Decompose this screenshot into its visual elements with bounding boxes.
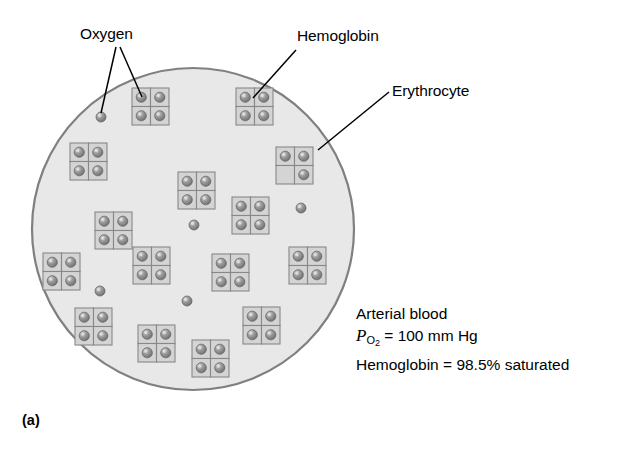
hemoglobin-molecule	[133, 247, 170, 284]
oxygen-highlight	[198, 346, 201, 349]
bound-oxygen	[99, 235, 109, 245]
bound-oxygen	[236, 220, 246, 230]
oxygen-highlight	[49, 259, 52, 262]
bound-oxygen	[98, 312, 108, 322]
po2-symbol: PO2	[356, 326, 380, 345]
oxygen-highlight	[97, 288, 100, 291]
hemoglobin-molecule	[75, 308, 112, 345]
oxygen-highlight	[261, 113, 264, 116]
oxygen-highlight	[184, 298, 187, 301]
hemoglobin-molecule	[138, 325, 175, 362]
oxygen-highlight	[158, 272, 161, 275]
oxygen-highlight	[218, 279, 221, 282]
bound-oxygen	[280, 151, 290, 161]
hemoglobin-molecule	[95, 212, 132, 249]
bound-oxygen	[201, 195, 211, 205]
free-oxygen-molecule	[95, 286, 105, 296]
oxygen-highlight	[237, 279, 240, 282]
oxygen-highlight	[100, 314, 103, 317]
oxygen-highlight	[261, 94, 264, 97]
hemoglobin-molecule	[178, 172, 215, 209]
bound-oxygen	[47, 276, 57, 286]
bound-oxygen	[255, 201, 265, 211]
bound-oxygen	[240, 92, 250, 102]
oxygen-highlight	[314, 272, 317, 275]
oxygen-highlight	[242, 94, 245, 97]
bound-oxygen	[142, 348, 152, 358]
bound-oxygen	[47, 257, 57, 267]
bound-oxygen	[137, 270, 147, 280]
bound-oxygen	[247, 311, 257, 321]
bound-oxygen	[79, 312, 89, 322]
oxygen-highlight	[81, 333, 84, 336]
oxygen-highlight	[301, 153, 304, 156]
oxygen-highlight	[101, 218, 104, 221]
stat-arterial-blood: Arterial blood	[356, 303, 569, 325]
oxygen-highlight	[298, 205, 301, 208]
hemoglobin-molecule	[236, 88, 273, 125]
bound-oxygen	[161, 348, 171, 358]
oxygen-highlight	[268, 313, 271, 316]
bound-oxygen	[66, 276, 76, 286]
oxygen-highlight	[257, 222, 260, 225]
blood-stats-block: Arterial blood PO2 = 100 mm Hg Hemoglobi…	[356, 303, 569, 376]
oxygen-highlight	[203, 197, 206, 200]
bound-oxygen	[66, 257, 76, 267]
bound-oxygen	[299, 170, 309, 180]
oxygen-highlight	[144, 350, 147, 353]
bound-oxygen	[118, 235, 128, 245]
oxygen-highlight	[218, 260, 221, 263]
bound-oxygen	[93, 166, 103, 176]
oxygen-highlight	[198, 365, 201, 368]
oxygen-highlight	[139, 272, 142, 275]
bound-oxygen	[235, 258, 245, 268]
oxygen-highlight	[76, 149, 79, 152]
bound-oxygen	[236, 201, 246, 211]
free-oxygen-molecule	[189, 220, 199, 230]
free-oxygen-molecule	[182, 296, 192, 306]
oxygen-highlight	[238, 203, 241, 206]
oxygen-highlight	[120, 218, 123, 221]
oxygen-highlight	[68, 259, 71, 262]
hemoglobin-molecule	[243, 307, 280, 344]
oxygen-highlight	[301, 172, 304, 175]
bound-oxygen	[216, 258, 226, 268]
stat-hemoglobin-saturation: Hemoglobin = 98.5% saturated	[356, 354, 569, 376]
bound-oxygen	[259, 92, 269, 102]
leader-line-erythrocyte	[318, 92, 389, 150]
oxygen-highlight	[120, 237, 123, 240]
bound-oxygen	[201, 176, 211, 186]
oxygen-highlight	[157, 113, 160, 116]
oxygen-highlight	[49, 278, 52, 281]
bound-oxygen	[118, 216, 128, 226]
hemoglobin-subunit	[276, 166, 295, 185]
oxygen-highlight	[101, 237, 104, 240]
oxygen-highlight	[249, 332, 252, 335]
oxygen-highlight	[95, 168, 98, 171]
bound-oxygen	[137, 251, 147, 261]
label-hemoglobin: Hemoglobin	[297, 27, 379, 45]
oxygen-highlight	[295, 253, 298, 256]
bound-oxygen	[266, 330, 276, 340]
bound-oxygen	[196, 363, 206, 373]
bound-oxygen	[293, 270, 303, 280]
oxygen-highlight	[157, 94, 160, 97]
oxygen-highlight	[295, 272, 298, 275]
hemoglobin-molecule	[212, 254, 249, 291]
bound-oxygen	[182, 176, 192, 186]
bound-oxygen	[259, 111, 269, 121]
bound-oxygen	[74, 166, 84, 176]
oxygen-highlight	[184, 178, 187, 181]
oxygen-highlight	[184, 197, 187, 200]
oxygen-highlight	[163, 331, 166, 334]
oxygen-highlight	[138, 113, 141, 116]
oxygen-highlight	[158, 253, 161, 256]
bound-oxygen	[142, 329, 152, 339]
oxygen-highlight	[81, 314, 84, 317]
oxygen-highlight	[268, 332, 271, 335]
oxygen-highlight	[237, 260, 240, 263]
hemoglobin-molecule	[43, 253, 80, 290]
bound-oxygen	[156, 251, 166, 261]
hemoglobin-molecule	[70, 143, 107, 180]
bound-oxygen	[312, 251, 322, 261]
